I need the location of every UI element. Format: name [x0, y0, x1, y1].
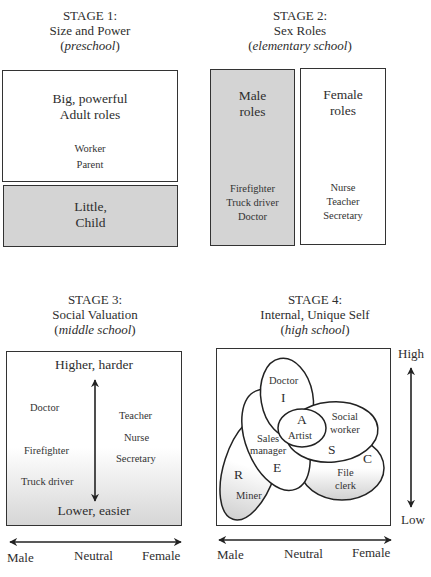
letter-s: S	[328, 442, 336, 458]
sales-manager-label: Sales manager	[250, 433, 286, 457]
letter-a: A	[297, 412, 307, 428]
stage4-x-axis-neutral: Neutral	[284, 546, 323, 562]
letter-r: R	[234, 467, 243, 483]
stage4-x-axis-male: Male	[217, 547, 244, 563]
file-clerk-label: File clerk	[335, 466, 356, 492]
social-worker-label: Social worker	[330, 410, 360, 436]
artist-label: Artist	[288, 428, 312, 444]
miner-label: Miner	[236, 488, 262, 504]
stage4-venn-diagram	[0, 0, 431, 577]
stage4-x-axis-female: Female	[352, 545, 390, 561]
doctor-label: Doctor	[269, 373, 298, 389]
letter-e: E	[273, 460, 281, 476]
letter-i: I	[281, 390, 286, 406]
letter-c: C	[363, 451, 372, 467]
stage4-y-axis-low: Low	[401, 512, 425, 528]
stage4-y-axis-high: High	[398, 346, 424, 362]
